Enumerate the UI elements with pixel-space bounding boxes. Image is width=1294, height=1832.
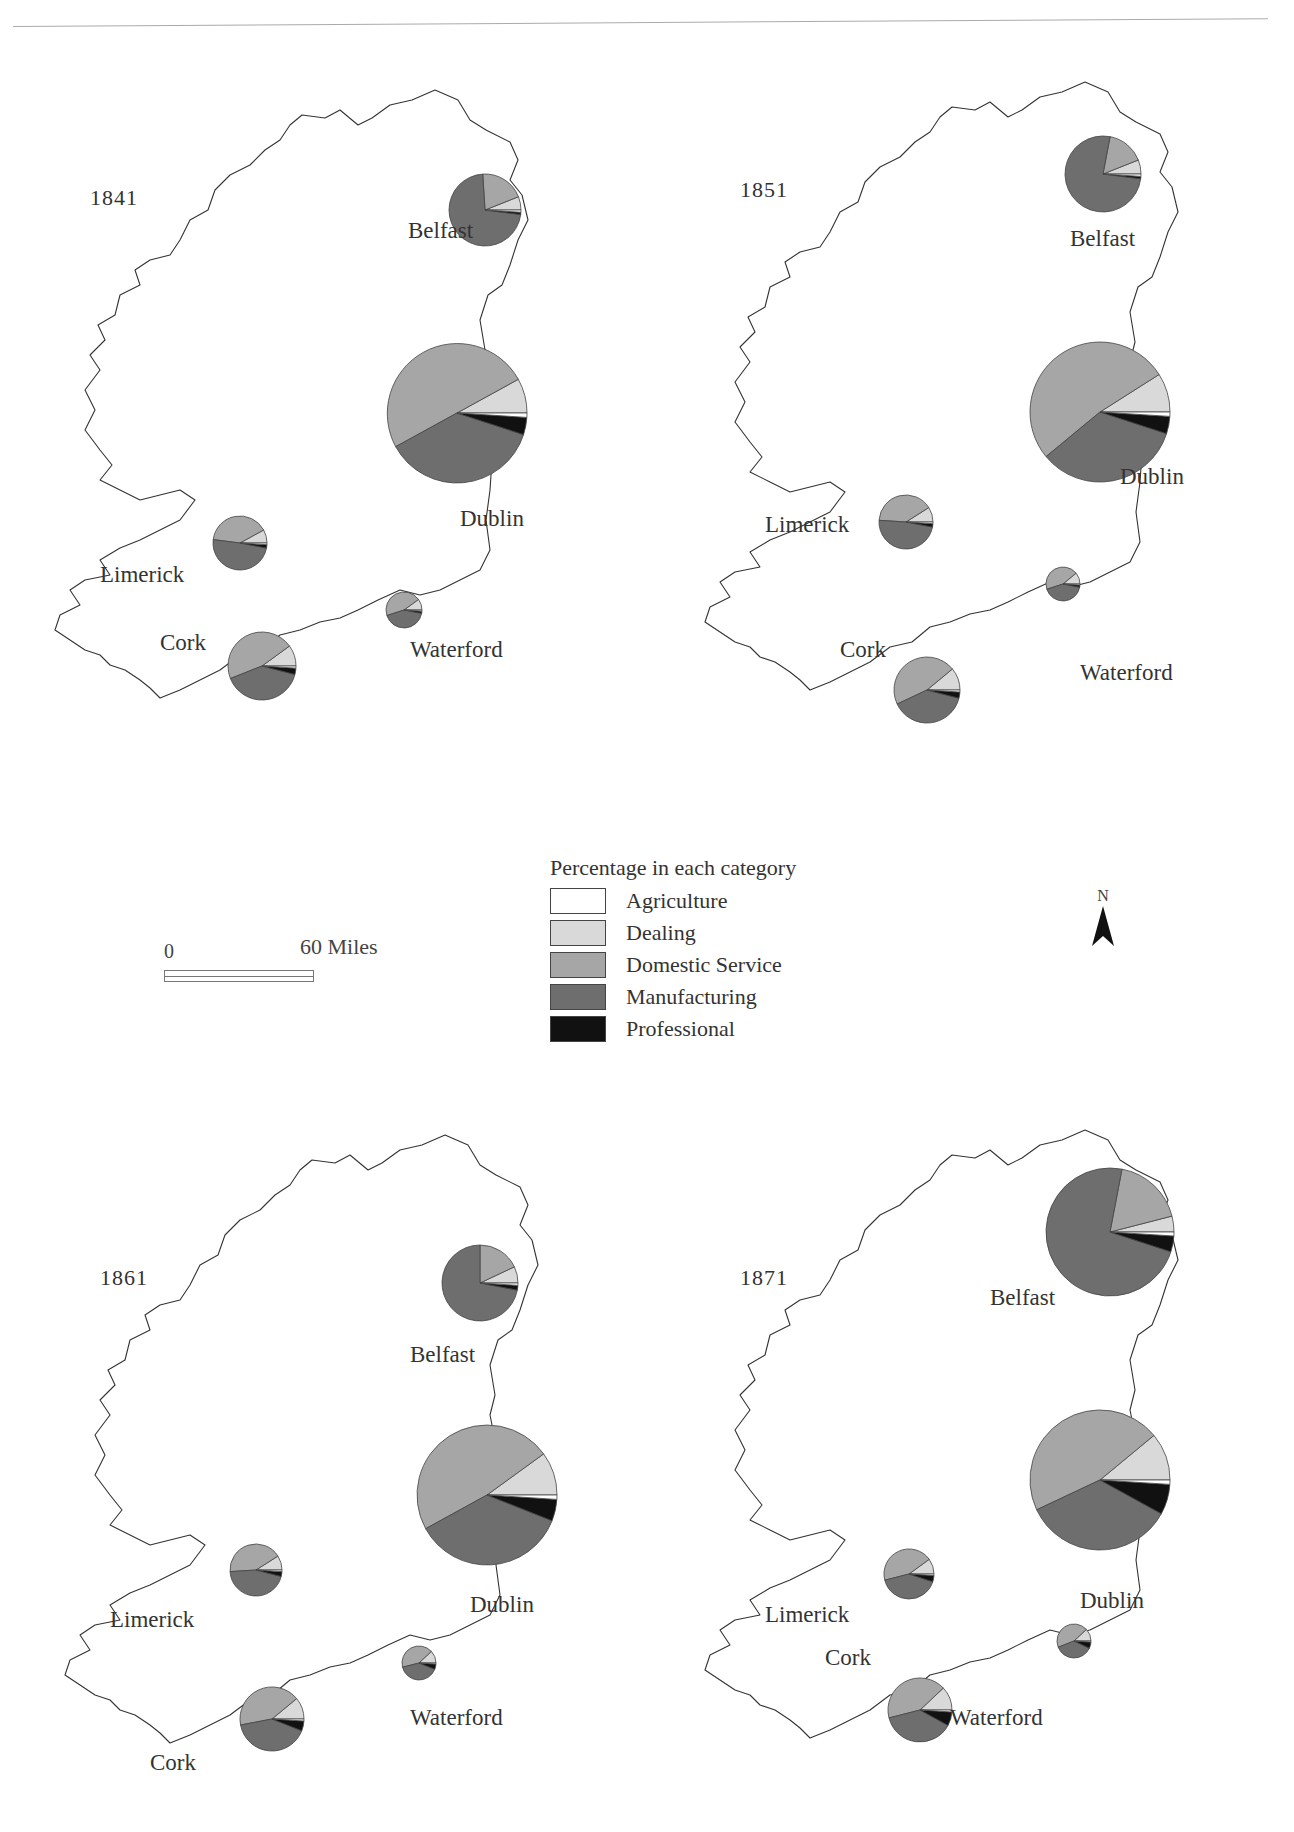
legend-item-agriculture: Agriculture (550, 885, 796, 917)
city-label-cork: Cork (840, 637, 886, 663)
city-label-dublin: Dublin (1080, 1588, 1144, 1614)
legend-item-professional: Professional (550, 1013, 796, 1045)
year-label: 1871 (740, 1265, 788, 1291)
city-label-waterford: Waterford (1080, 660, 1173, 686)
pie-chart-waterford (386, 592, 422, 628)
agriculture-swatch (550, 888, 606, 914)
pie-chart-cork (894, 657, 960, 723)
pie-chart-belfast (442, 1245, 518, 1321)
year-label: 1861 (100, 1265, 148, 1291)
pie-chart-limerick (213, 516, 267, 570)
pie-chart-limerick (230, 1544, 282, 1596)
pie-chart-limerick (879, 495, 933, 549)
year-label: 1851 (740, 177, 788, 203)
city-label-waterford: Waterford (950, 1705, 1043, 1731)
city-label-cork: Cork (160, 630, 206, 656)
pie-chart-waterford (402, 1646, 436, 1680)
legend-title: Percentage in each category (550, 855, 796, 881)
ireland-outline-map (50, 1115, 610, 1832)
pie-chart-dublin (387, 344, 527, 483)
pie-chart-waterford (1057, 1624, 1091, 1658)
pie-chart-dublin (417, 1425, 557, 1565)
map-panel-1851: 1851BelfastDublinLimerickCorkWaterford (690, 62, 1250, 782)
legend-item-manufacturing: Manufacturing (550, 981, 796, 1013)
city-label-limerick: Limerick (100, 562, 184, 588)
city-label-dublin: Dublin (460, 506, 524, 532)
north-arrow-icon (1088, 904, 1118, 948)
map-panel-1861: 1861BelfastDublinLimerickCorkWaterford (50, 1115, 610, 1832)
pie-chart-belfast (1065, 136, 1141, 212)
pie-chart-dublin (1030, 342, 1170, 482)
city-label-limerick: Limerick (765, 1602, 849, 1628)
top-rule (13, 18, 1268, 27)
map-panel-1871: 1871BelfastDublinLimerickCorkWaterford (690, 1110, 1250, 1830)
city-label-limerick: Limerick (110, 1607, 194, 1633)
city-label-belfast: Belfast (990, 1285, 1055, 1311)
legend: Percentage in each category Agriculture … (550, 855, 796, 1045)
scale-bar-graphic (164, 970, 314, 982)
city-label-belfast: Belfast (408, 218, 473, 244)
pie-chart-belfast (1046, 1168, 1174, 1296)
city-label-dublin: Dublin (470, 1592, 534, 1618)
legend-label: Professional (626, 1016, 735, 1042)
professional-swatch (550, 1016, 606, 1042)
north-arrow: N (1088, 888, 1118, 952)
city-label-waterford: Waterford (410, 1705, 503, 1731)
city-label-belfast: Belfast (1070, 226, 1135, 252)
legend-label: Domestic Service (626, 952, 782, 978)
scale-end-label: 60 Miles (300, 934, 378, 960)
legend-label: Dealing (626, 920, 696, 946)
city-label-cork: Cork (825, 1645, 871, 1671)
city-label-belfast: Belfast (410, 1342, 475, 1368)
city-label-cork: Cork (150, 1750, 196, 1776)
pie-chart-waterford (1046, 567, 1080, 601)
pie-chart-cork (228, 632, 296, 700)
scale-start-label: 0 (164, 940, 174, 963)
legend-label: Manufacturing (626, 984, 757, 1010)
ireland-outline-map (40, 70, 600, 790)
pie-chart-dublin (1030, 1410, 1170, 1550)
manufacturing-swatch (550, 984, 606, 1010)
legend-item-domestic-service: Domestic Service (550, 949, 796, 981)
pie-chart-cork (888, 1678, 952, 1742)
city-label-dublin: Dublin (1120, 464, 1184, 490)
map-panel-1841: 1841BelfastDublinLimerickCorkWaterford (40, 70, 600, 790)
city-label-waterford: Waterford (410, 637, 503, 663)
city-label-limerick: Limerick (765, 512, 849, 538)
legend-label: Agriculture (626, 888, 727, 914)
north-label: N (1088, 888, 1118, 904)
legend-item-dealing: Dealing (550, 917, 796, 949)
year-label: 1841 (90, 185, 138, 211)
domestic-service-swatch (550, 952, 606, 978)
pie-chart-limerick (884, 1549, 934, 1599)
dealing-swatch (550, 920, 606, 946)
pie-chart-cork (240, 1687, 304, 1751)
